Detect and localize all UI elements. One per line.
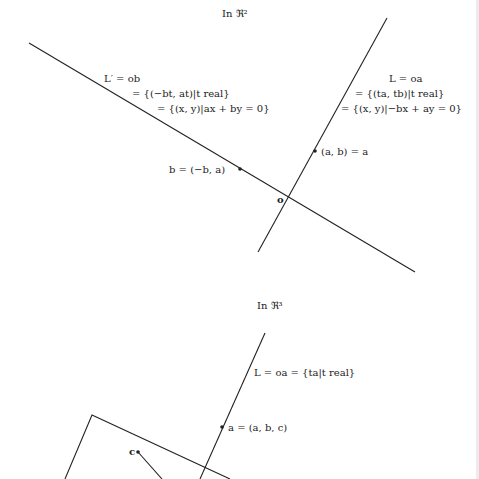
L-3d-label: L = oa = {ta|t real}: [254, 367, 355, 378]
bottom-title: In ℜ³: [257, 300, 283, 311]
point-a-3d-label: a = (a, b, c): [228, 422, 287, 433]
point-c-label: c: [129, 446, 135, 457]
line-L-3d: [200, 333, 265, 479]
point-a: [313, 149, 317, 153]
segment-from-c: [138, 452, 162, 479]
origin-label: o: [277, 194, 284, 205]
point-a-3d: [220, 425, 224, 429]
top-title: In ℜ²: [222, 8, 248, 19]
point-b-label: b = (−b, a): [169, 164, 225, 175]
L-line3: = {(x, y)|−bx + ay = 0}: [341, 103, 462, 114]
L-prime-line2: = {(−bt, at)|t real}: [132, 88, 230, 99]
plane-outline: [65, 415, 230, 479]
L-line2: = {(ta, tb)|t real}: [355, 88, 444, 99]
L-prime-line3: = {(x, y)|ax + by = 0}: [157, 103, 270, 114]
line-L-prime: [29, 43, 415, 272]
point-c: [136, 450, 140, 454]
point-a-label: (a, b) = a: [321, 146, 368, 157]
L-prime-line1: L′ = ob: [104, 73, 140, 84]
point-b: [238, 167, 242, 171]
geometry-figure: [0, 0, 479, 479]
L-line1: L = oa: [389, 73, 422, 84]
